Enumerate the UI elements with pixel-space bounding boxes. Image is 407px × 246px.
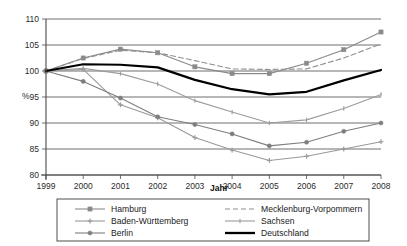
x-tick-label: 2003 bbox=[185, 181, 204, 191]
data-point-marker bbox=[193, 122, 197, 126]
data-point-marker bbox=[88, 207, 92, 211]
y-tick-label: 100 bbox=[25, 66, 39, 76]
y-tick-label: 110 bbox=[25, 14, 39, 24]
legend-item-baden-w-rttemberg[interactable]: Mecklenburg-Vorpommern bbox=[225, 204, 362, 214]
y-tick-label: 105 bbox=[25, 40, 39, 50]
axis-lines bbox=[41, 19, 381, 180]
y-axis-ticks bbox=[42, 19, 46, 175]
data-point-marker bbox=[267, 144, 271, 148]
series-line bbox=[46, 64, 381, 94]
x-tick-label: 2001 bbox=[111, 181, 130, 191]
data-point-marker bbox=[304, 140, 308, 144]
series-baden-w-rttemberg bbox=[46, 44, 381, 71]
y-tick-label: 85 bbox=[30, 144, 40, 154]
data-point-marker bbox=[81, 79, 85, 83]
x-tick-label: 2000 bbox=[74, 181, 93, 191]
legend-label: Hamburg bbox=[111, 204, 147, 214]
x-tick-label: 2002 bbox=[148, 181, 167, 191]
legend-item-deutschland[interactable]: Deutschland bbox=[225, 228, 309, 238]
series-mecklenburg-vorpommern bbox=[46, 66, 381, 125]
x-tick-label: 2008 bbox=[372, 181, 391, 191]
legend-label: Berlin bbox=[111, 228, 133, 238]
x-tick-label: 1999 bbox=[37, 181, 56, 191]
data-point-marker bbox=[193, 65, 197, 69]
x-tick-label: 2006 bbox=[297, 181, 316, 191]
data-point-marker bbox=[230, 72, 234, 76]
data-point-marker bbox=[230, 132, 234, 136]
data-point-marker bbox=[379, 30, 383, 34]
legend-item-sachsen[interactable]: Berlin bbox=[75, 228, 133, 238]
series-line bbox=[46, 69, 381, 160]
series-line bbox=[46, 44, 381, 71]
y-tick-label: 80 bbox=[30, 170, 40, 180]
data-point-marker bbox=[118, 96, 122, 100]
x-axis-ticks bbox=[46, 175, 381, 179]
legend-label: Baden-Württemberg bbox=[111, 216, 189, 226]
chart-legend: HamburgBaden-WürttembergBerlinMecklenbur… bbox=[57, 199, 369, 241]
data-point-marker bbox=[342, 129, 346, 133]
series-berlin bbox=[44, 67, 384, 163]
data-point-marker bbox=[304, 61, 308, 65]
legend-item-mecklenburg-vorpommern[interactable]: Sachsen bbox=[225, 216, 295, 226]
y-tick-label: 95 bbox=[30, 92, 40, 102]
data-series-layer bbox=[44, 30, 384, 163]
legend-label: Mecklenburg-Vorpommern bbox=[261, 204, 362, 214]
legend-item-hamburg[interactable]: Hamburg bbox=[75, 204, 147, 214]
data-point-marker bbox=[342, 48, 346, 52]
data-point-marker bbox=[267, 72, 271, 76]
line-chart: 80859095100105110 1999200020012002200320… bbox=[0, 0, 407, 246]
x-axis-title: Jahr bbox=[210, 183, 229, 193]
legend-label: Deutschland bbox=[261, 228, 309, 238]
series-hamburg bbox=[44, 30, 383, 76]
x-tick-label: 2005 bbox=[260, 181, 279, 191]
x-tick-label: 2007 bbox=[334, 181, 353, 191]
y-tick-label: 90 bbox=[30, 118, 40, 128]
legend-label: Sachsen bbox=[261, 216, 295, 226]
series-line bbox=[46, 32, 381, 74]
data-point-marker bbox=[379, 121, 383, 125]
data-point-marker bbox=[156, 115, 160, 119]
series-deutschland bbox=[46, 64, 381, 94]
chart-canvas: 80859095100105110 1999200020012002200320… bbox=[0, 0, 407, 246]
series-line bbox=[46, 68, 381, 123]
legend-item-berlin[interactable]: Baden-Württemberg bbox=[75, 216, 189, 226]
y-axis-title: % bbox=[22, 91, 30, 101]
data-point-marker bbox=[88, 231, 92, 235]
